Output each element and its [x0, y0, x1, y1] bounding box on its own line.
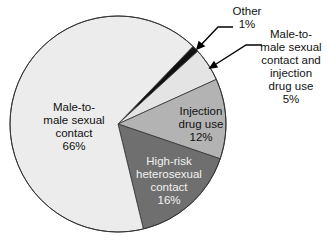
label-idu: Injection drug use 12%: [166, 105, 236, 144]
label-msm: Male-to- male sexual contact 66%: [32, 101, 116, 153]
label-msm-idu: Male-to- male sexual contact and injecti…: [252, 28, 327, 106]
label-het: High-risk heterosexual contact 16%: [125, 155, 213, 207]
